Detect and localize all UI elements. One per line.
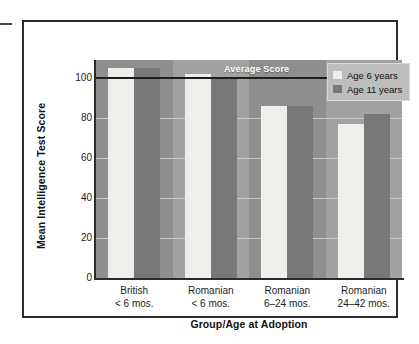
legend-item-label: Age 6 years bbox=[347, 70, 398, 81]
legend-item-age-6-years[interactable]: Age 6 years bbox=[333, 68, 402, 82]
x-tick-label: British< 6 mos. bbox=[96, 284, 173, 310]
x-tick-label: Romanian24–42 mos. bbox=[326, 284, 403, 310]
y-tick-label: 0 bbox=[66, 272, 92, 283]
y-tick-label: 20 bbox=[66, 232, 92, 243]
y-tick-label: 40 bbox=[66, 192, 92, 203]
x-tick-label-line: Romanian bbox=[326, 284, 403, 297]
bar bbox=[261, 106, 287, 278]
x-axis-title: Group/Age at Adoption bbox=[96, 318, 402, 330]
x-tick-label-line: < 6 mos. bbox=[173, 297, 250, 310]
legend-item-label: Age 11 years bbox=[347, 84, 402, 95]
y-tick-label: 80 bbox=[66, 112, 92, 123]
bar bbox=[185, 74, 211, 278]
bar bbox=[134, 68, 160, 278]
x-tick-label-line: 6–24 mos. bbox=[249, 297, 326, 310]
dark-swatch-icon bbox=[333, 85, 342, 93]
x-tick-label-line: 24–42 mos. bbox=[326, 297, 403, 310]
y-tick-label: 60 bbox=[66, 152, 92, 163]
legend-item-age-11-years[interactable]: Age 11 years bbox=[333, 82, 402, 96]
x-tick-label-line: Romanian bbox=[173, 284, 250, 297]
light-swatch-icon bbox=[333, 71, 342, 79]
average-score-label: Average Score bbox=[224, 64, 289, 74]
y-tick-label: 100 bbox=[66, 72, 92, 83]
page-edge-artifact bbox=[0, 23, 12, 25]
x-axis-line bbox=[94, 278, 404, 280]
y-axis-tick-labels: 020406080100 bbox=[62, 22, 92, 344]
x-tick-label-line: < 6 mos. bbox=[96, 297, 173, 310]
bar bbox=[287, 106, 313, 278]
bar bbox=[364, 114, 390, 278]
bar bbox=[211, 78, 237, 278]
x-tick-label-line: Romanian bbox=[249, 284, 326, 297]
figure-frame: 020406080100 Mean Intelligence Test Scor… bbox=[22, 20, 398, 318]
chart-legend[interactable]: Age 6 years Age 11 years bbox=[327, 63, 410, 101]
bar bbox=[108, 68, 134, 278]
x-tick-label-line: British bbox=[96, 284, 173, 297]
x-tick-label: Romanian6–24 mos. bbox=[249, 284, 326, 310]
y-axis-title: Mean Intelligence Test Score bbox=[35, 96, 47, 256]
bar bbox=[338, 124, 364, 278]
x-tick-label: Romanian< 6 mos. bbox=[173, 284, 250, 310]
